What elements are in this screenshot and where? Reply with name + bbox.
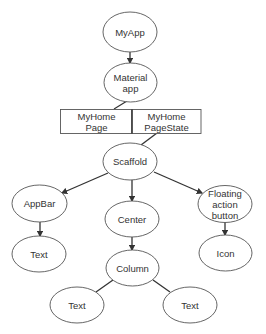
node-myhomepage-label-2: Page	[85, 122, 107, 133]
node-icon: Icon	[199, 235, 252, 271]
node-text-left: Text	[50, 287, 104, 323]
node-appbar-text-label: Text	[30, 249, 47, 260]
edge-scaffold-fab	[154, 172, 202, 193]
node-scaffold: Scaffold	[103, 143, 157, 180]
node-material-app: Material app	[104, 63, 157, 102]
node-appbar-label: AppBar	[24, 198, 56, 209]
node-fab-label-1: Floating	[208, 188, 242, 199]
edge-scaffold-appbar	[62, 173, 108, 193]
node-myhomepage-label-1: MyHome	[77, 111, 115, 122]
node-myhomepage: MyHome Page	[61, 110, 132, 134]
node-appbar-text: Text	[12, 236, 66, 272]
node-myhomepagestate-label-1: MyHome	[147, 111, 185, 122]
node-text-left-label: Text	[68, 300, 85, 311]
node-column: Column	[106, 250, 159, 286]
edge-materialapp-myhomepage	[114, 101, 127, 109]
node-appbar: AppBar	[12, 185, 67, 222]
node-fab-label-2: action	[212, 199, 237, 210]
node-myapp-label: MyApp	[115, 27, 145, 38]
node-floating-action-button: Floating action button	[198, 186, 252, 222]
node-myhomepagestate-label-2: PageState	[144, 122, 188, 133]
node-text-right-label: Text	[181, 300, 198, 311]
node-text-right: Text	[163, 287, 217, 323]
node-material-app-label-1: Material	[114, 72, 148, 83]
node-column-label: Column	[116, 263, 149, 274]
node-myhomepagestate: MyHome PageState	[132, 110, 201, 134]
node-fab-label-3: button	[212, 210, 238, 221]
node-center-label: Center	[118, 214, 147, 225]
node-scaffold-label: Scaffold	[113, 156, 147, 167]
node-center: Center	[105, 201, 159, 237]
node-material-app-label-2: app	[123, 83, 139, 94]
node-myapp: MyApp	[103, 12, 157, 52]
node-icon-label: Icon	[217, 248, 235, 259]
